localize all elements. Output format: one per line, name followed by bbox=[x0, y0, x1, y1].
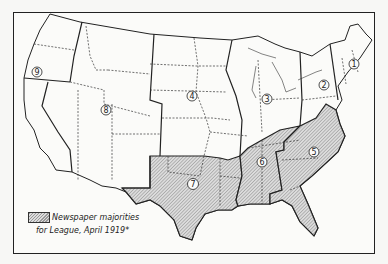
svg-text:2: 2 bbox=[321, 81, 326, 90]
svg-text:3: 3 bbox=[264, 95, 269, 104]
svg-text:7: 7 bbox=[190, 180, 195, 189]
svg-text:5: 5 bbox=[311, 148, 316, 157]
legend-line-1: Newspaper majorities bbox=[52, 211, 139, 224]
svg-text:9: 9 bbox=[34, 68, 39, 77]
svg-text:6: 6 bbox=[259, 158, 264, 167]
region-marker-4: 4 bbox=[187, 91, 197, 101]
region-marker-9: 9 bbox=[32, 67, 42, 77]
region-marker-1: 1 bbox=[349, 59, 359, 69]
svg-text:8: 8 bbox=[103, 106, 108, 115]
region-marker-8: 8 bbox=[101, 105, 111, 115]
svg-text:1: 1 bbox=[351, 60, 356, 69]
region-marker-3: 3 bbox=[262, 94, 272, 104]
svg-text:4: 4 bbox=[189, 92, 194, 101]
region-marker-5: 5 bbox=[309, 147, 319, 157]
region-marker-2: 2 bbox=[319, 80, 329, 90]
region-marker-6: 6 bbox=[257, 157, 267, 167]
legend-line-2: for League, April 1919* bbox=[28, 224, 139, 237]
map-legend: Newspaper majorities for League, April 1… bbox=[28, 211, 139, 237]
region-marker-7: 7 bbox=[188, 179, 199, 190]
legend-hatch-swatch bbox=[28, 212, 50, 223]
